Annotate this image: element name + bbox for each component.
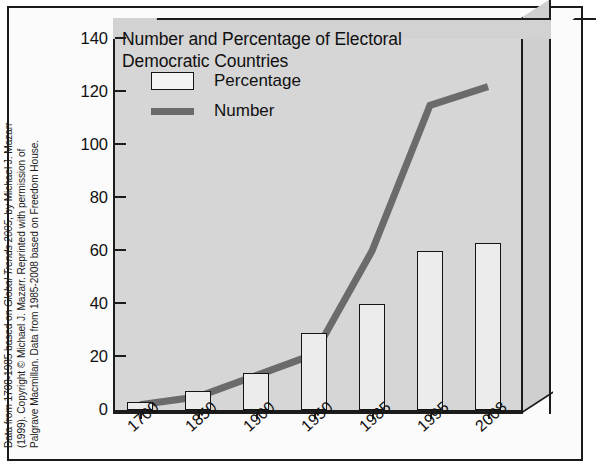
y-axis-tick xyxy=(115,302,126,304)
y-axis-tick xyxy=(115,143,126,145)
bar-1985 xyxy=(359,304,385,410)
y-axis-tick xyxy=(115,196,126,198)
y-axis-tick xyxy=(115,37,126,39)
chart-legend: Percentage Number xyxy=(151,66,301,126)
chart-container: Number and Percentage of Electoral Democ… xyxy=(88,18,567,442)
source-caption: Data from 1700-1985 based on Global Tren… xyxy=(2,10,64,450)
legend-label-percentage: Percentage xyxy=(214,71,301,91)
y-axis-label: 80 xyxy=(90,188,108,207)
legend-entry-number: Number xyxy=(151,96,301,126)
y-axis-label: 140 xyxy=(80,29,108,48)
bar-1995 xyxy=(417,251,443,410)
caption-line-2: (1999). Copyright © Michael J. Mazarr. R… xyxy=(15,10,28,448)
chart-3d-right-edge xyxy=(549,37,551,414)
y-axis-tick xyxy=(115,355,126,357)
y-axis-label: 20 xyxy=(90,347,108,366)
y-axis-label: 120 xyxy=(80,82,108,101)
y-axis-label: 40 xyxy=(90,294,108,313)
chart-3d-side-panel xyxy=(521,0,551,414)
y-axis-label: 0 xyxy=(99,400,108,419)
legend-swatch-bar-icon xyxy=(151,72,194,90)
y-axis-label: 60 xyxy=(90,241,108,260)
legend-label-number: Number xyxy=(214,101,274,121)
y-axis-label: 100 xyxy=(80,135,108,154)
legend-swatch-line-icon xyxy=(151,108,194,115)
screenshot-root: Data from 1700-1985 based on Global Tren… xyxy=(0,0,596,471)
y-axis-tick xyxy=(115,90,126,92)
legend-entry-percentage: Percentage xyxy=(151,66,301,96)
caption-line-1: Data from 1700-1985 based on Global Tren… xyxy=(2,10,15,448)
caption-line-3: Palgrave Macmillan. Data from 1985-2008 … xyxy=(28,10,41,448)
bar-2008 xyxy=(475,243,501,410)
x-axis-labels: 1700185019001950198519952008 xyxy=(115,416,555,462)
y-axis-tick xyxy=(115,249,126,251)
